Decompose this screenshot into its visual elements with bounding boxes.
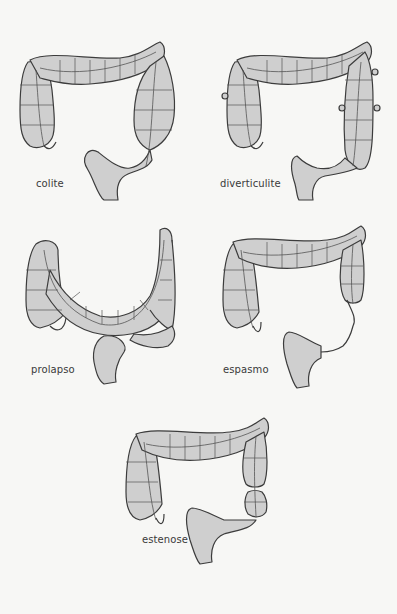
colon-diverticulitis-illustration xyxy=(197,0,397,200)
colon-colitis-illustration xyxy=(0,0,200,200)
panel-estenose: estenose xyxy=(100,400,300,614)
label-prolapso: prolapso xyxy=(31,364,75,375)
panel-diverticulite: diverticulite xyxy=(197,0,397,200)
label-colite: colite xyxy=(36,178,64,189)
panel-espasmo: espasmo xyxy=(197,200,397,420)
colon-prolapse-illustration xyxy=(0,200,200,420)
label-espasmo: espasmo xyxy=(223,364,269,375)
colon-stenosis-illustration xyxy=(100,400,300,614)
label-diverticulite: diverticulite xyxy=(220,178,281,189)
colon-spasm-illustration xyxy=(197,200,397,420)
label-estenose: estenose xyxy=(142,534,188,545)
panel-prolapso: prolapso xyxy=(0,200,200,420)
panel-colite: colite xyxy=(0,0,200,200)
